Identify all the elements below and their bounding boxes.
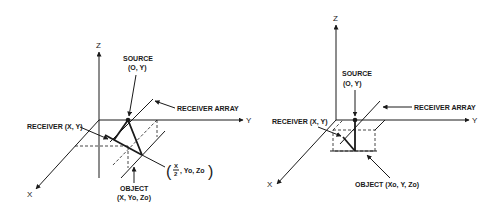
right-source-dot xyxy=(353,118,358,123)
left-source-coords: (O, Y) xyxy=(128,64,147,72)
left-object-title: OBJECT xyxy=(120,185,149,192)
left-figure: Z Y X SOURCE (O, Y) RECEIVER ARRAY RECEI… xyxy=(27,41,252,202)
right-x-axis xyxy=(277,120,336,184)
left-object-coords: (X, Yo, Zo) xyxy=(117,194,151,202)
right-receiver-label: RECEIVER (X, Y) xyxy=(272,118,328,126)
left-source-ray-2 xyxy=(114,120,128,140)
left-frac-num: X xyxy=(174,163,178,169)
right-receiver-array-label: RECEIVER ARRAY xyxy=(414,104,476,111)
right-receiver-pointer xyxy=(318,127,341,136)
left-image-point-label: ( X 2 , Yo, Zo ) xyxy=(166,163,213,180)
diagram-canvas: Z Y X SOURCE (O, Y) RECEIVER ARRAY RECEI… xyxy=(0,0,500,213)
left-receiver-array-label: RECEIVER ARRAY xyxy=(177,105,239,112)
left-image-point-rest: , Yo, Zo xyxy=(180,167,205,175)
right-figure: Z Y X SOURCE (O, Y) RECEIVER ARRAY RECEI… xyxy=(267,14,478,189)
left-receiver-label: RECEIVER (X, Y) xyxy=(27,123,83,131)
right-source-coords: (O, Y) xyxy=(343,80,362,88)
right-x-label: X xyxy=(267,180,273,189)
left-source-title: SOURCE xyxy=(123,55,153,62)
right-object-pointer xyxy=(367,155,390,178)
right-source-title: SOURCE xyxy=(342,70,372,77)
right-y-label: Y xyxy=(472,116,478,125)
right-receiver-ray xyxy=(343,137,355,151)
left-receiver-array-pointer xyxy=(155,101,175,108)
left-frac-den: 2 xyxy=(174,171,178,177)
left-receiver-pointer xyxy=(80,127,108,139)
right-plane-edge xyxy=(375,120,385,130)
left-paren-open: ( xyxy=(166,163,172,180)
right-z-label: Z xyxy=(333,14,338,23)
left-receiver-ray xyxy=(105,135,142,155)
left-paren-close: ) xyxy=(208,163,213,180)
left-x-axis xyxy=(36,120,99,189)
left-y-label: Y xyxy=(246,116,252,125)
left-receiver-array-lower xyxy=(121,131,165,178)
right-dash-box xyxy=(333,130,375,151)
left-source-dot xyxy=(126,118,131,123)
right-object-label: OBJECT (Xo, Y, Zo) xyxy=(355,181,419,189)
left-source-pointer xyxy=(129,75,136,116)
left-receiver-ray-ext xyxy=(142,155,165,167)
right-receiver-array xyxy=(340,101,380,144)
left-source-ray xyxy=(128,120,142,155)
left-z-label: Z xyxy=(96,41,101,50)
left-x-label: X xyxy=(27,190,33,199)
